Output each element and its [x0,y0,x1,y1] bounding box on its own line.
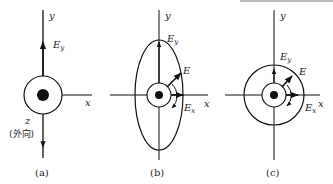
polarization-figure: y Ey x z (外向) (a) y Ey E Ex x (b) [0,0,333,184]
propagation-dot-icon [37,89,49,101]
e-vector-arrow [167,73,181,87]
x-axis-label: x [318,98,324,109]
ey-label: Ey [279,51,292,64]
ex-label: Ex [304,102,316,115]
y-axis-label: y [164,10,171,21]
caption-b: (b) [150,167,164,178]
rotation-arc-arrow [172,84,177,108]
cropped-text-strip [240,0,333,2]
panel-a: y Ey x z (外向) (a) [9,10,92,178]
ey-label: Ey [52,39,65,52]
x-axis-label: x [85,97,91,108]
panel-b: y Ey E Ex x (b) [110,10,210,178]
panel-c: y Ey E Ex x (c) [225,10,324,178]
x-axis-label: x [204,98,210,109]
caption-a: (a) [35,167,49,178]
e-label: E [298,66,307,77]
z-axis-label: z [24,115,31,126]
ex-label: Ex [183,102,195,115]
caption-c: (c) [266,167,280,178]
z-direction-note: (外向) [9,128,34,139]
propagation-dot-icon [270,91,278,99]
y-axis-label: y [279,10,286,21]
e-label: E [182,65,191,76]
y-axis-label: y [48,10,55,21]
propagation-dot-icon [155,91,163,99]
